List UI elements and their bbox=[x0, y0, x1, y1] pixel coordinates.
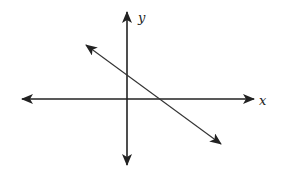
plotted-line bbox=[86, 45, 221, 144]
y-axis-label: y bbox=[137, 10, 146, 25]
coordinate-plane: y x bbox=[0, 0, 282, 182]
x-axis-label: x bbox=[259, 93, 267, 108]
